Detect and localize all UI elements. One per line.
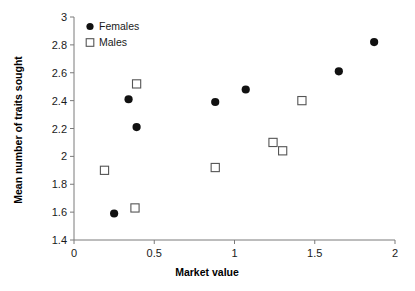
y-tick-label: 2.6: [52, 67, 67, 79]
legend-label-males: Males: [99, 36, 127, 48]
y-axis-title: Mean number of traits sought: [12, 56, 24, 204]
chart-canvas: 1.41.61.822.22.42.62.83 00.511.52 Female…: [0, 0, 415, 291]
y-tick-label: 2.4: [52, 95, 67, 107]
data-point-male: [279, 147, 287, 155]
series-females: [110, 38, 378, 218]
y-tick-label: 3: [61, 11, 67, 23]
data-point-male: [298, 97, 306, 105]
data-point-female: [370, 38, 378, 46]
y-tick-label: 1.8: [52, 178, 67, 190]
data-point-female: [132, 123, 140, 131]
data-point-male: [269, 138, 277, 146]
legend-marker-males: [86, 39, 94, 47]
data-point-female: [242, 85, 250, 93]
y-tick-label: 2.2: [52, 123, 67, 135]
x-tick-marks: [74, 240, 395, 244]
x-tick-label: 1: [231, 247, 237, 259]
data-point-male: [100, 166, 108, 174]
data-point-male: [131, 204, 139, 212]
data-point-female: [335, 67, 343, 75]
x-tick-labels: 00.511.52: [71, 247, 398, 259]
x-tick-label: 0.5: [147, 247, 162, 259]
chart-legend: FemalesMales: [86, 20, 139, 48]
legend-marker-females: [86, 23, 93, 30]
y-tick-labels: 1.41.61.822.22.42.62.83: [52, 11, 67, 246]
scatter-chart: 1.41.61.822.22.42.62.83 00.511.52 Female…: [0, 0, 415, 291]
x-axis-title: Market value: [175, 266, 239, 278]
y-tick-marks: [70, 17, 74, 240]
x-axis: 00.511.52: [71, 240, 398, 259]
data-point-female: [124, 95, 132, 103]
x-tick-label: 2: [392, 247, 398, 259]
data-point-layer: [100, 38, 378, 218]
y-tick-label: 2: [61, 150, 67, 162]
legend-label-females: Females: [99, 20, 139, 32]
x-tick-label: 1.5: [307, 247, 322, 259]
y-tick-label: 1.4: [52, 234, 67, 246]
x-tick-label: 0: [71, 247, 77, 259]
data-point-male: [211, 163, 219, 171]
data-point-male: [132, 80, 140, 88]
data-point-female: [211, 98, 219, 106]
y-axis: 1.41.61.822.22.42.62.83: [52, 11, 74, 246]
data-point-female: [110, 209, 118, 217]
y-tick-label: 1.6: [52, 206, 67, 218]
y-tick-label: 2.8: [52, 39, 67, 51]
